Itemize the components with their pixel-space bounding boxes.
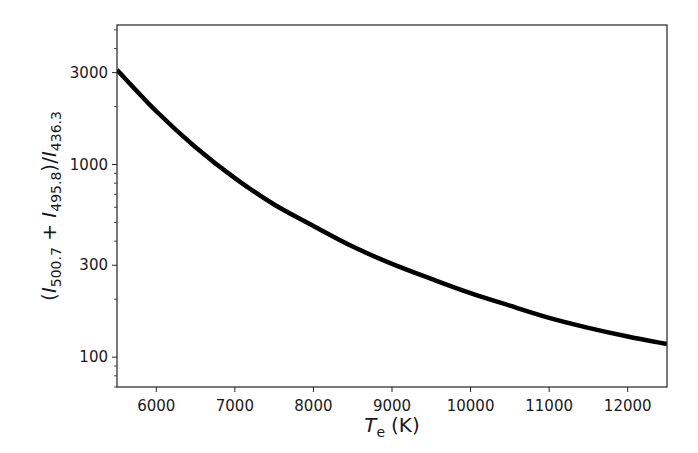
y-axis-label: (I500.7 + I495.8)/I436.3 <box>37 111 64 301</box>
y-tick-label: 1000 <box>70 156 108 174</box>
plot-frame <box>117 25 667 387</box>
x-tick-label: 8000 <box>294 397 332 415</box>
x-axis: 6000700080009000100001100012000 <box>137 387 651 415</box>
y-tick-label: 100 <box>79 348 108 366</box>
x-tick-label: 12000 <box>604 397 652 415</box>
y-tick-label: 3000 <box>70 64 108 82</box>
x-tick-label: 6000 <box>137 397 175 415</box>
plot-area <box>117 70 667 344</box>
y-axis: 10030010003000 <box>70 64 117 367</box>
y-tick-label: 300 <box>79 256 108 274</box>
x-tick-label: 11000 <box>525 397 573 415</box>
ratio-curve <box>117 70 667 344</box>
x-axis-label: Te(K) <box>364 413 420 440</box>
line-chart: 6000700080009000100001100012000 10030010… <box>0 0 698 453</box>
x-tick-label: 10000 <box>447 397 495 415</box>
x-tick-label: 7000 <box>216 397 254 415</box>
